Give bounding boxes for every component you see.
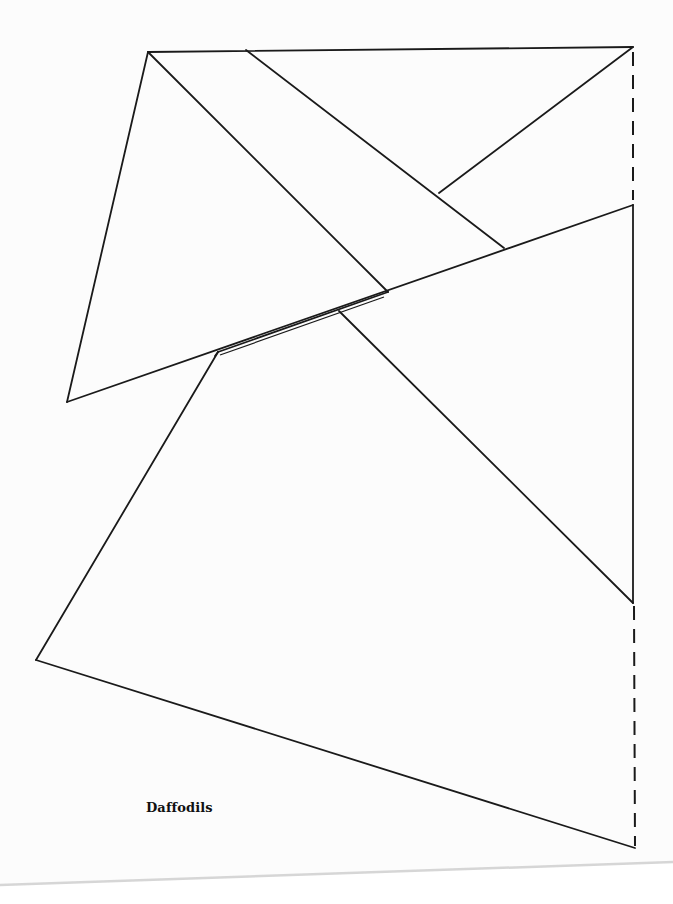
inner-diagonal-lower-line xyxy=(339,311,633,603)
short-segment-top-right-line xyxy=(439,47,633,193)
left-triangle-left-edge-line xyxy=(67,52,148,402)
dashed-bottom-right-line xyxy=(634,606,635,846)
long-diagonal-line xyxy=(67,205,633,402)
bottom-edge-line xyxy=(36,660,635,848)
scanned-page: Daffodils xyxy=(0,0,673,904)
diagram-caption: Daffodils xyxy=(146,800,213,815)
diagonal-from-apex-line xyxy=(148,52,388,292)
top-edge-line xyxy=(148,47,633,52)
double-line-short-line xyxy=(215,352,218,356)
diagonal-second-line xyxy=(246,50,504,248)
daffodils-pattern-diagram xyxy=(0,0,673,904)
lower-left-edge-line xyxy=(36,352,218,660)
double-line-lower xyxy=(220,297,384,355)
double-line-upper-line xyxy=(218,292,388,352)
solid-lines xyxy=(36,47,635,848)
